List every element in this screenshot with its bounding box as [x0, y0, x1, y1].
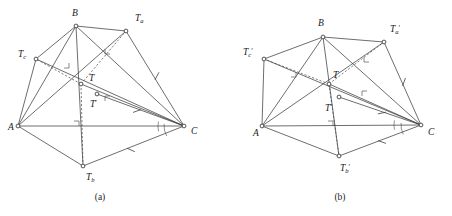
tick-mark-1 [403, 78, 406, 86]
edge-B-Ta [76, 26, 126, 31]
edge-A-Ta [18, 31, 126, 126]
vertex-T [79, 82, 83, 86]
geometry-figure: ABCTaTbTcTT′ABCTa′Tb′Tc′TT′(a)(b) [0, 0, 452, 216]
vertex-T [327, 82, 331, 86]
label-A: A [7, 122, 14, 132]
vertex-B [74, 24, 78, 28]
vertex-A [260, 124, 264, 128]
panel-a: ABCTaTbTcTT′ [7, 8, 198, 183]
label-Tp: T′ [90, 99, 97, 109]
label-Ta: Ta [135, 13, 144, 24]
edge-Ta-C [384, 42, 421, 125]
edge-A-Tb [262, 126, 339, 156]
tick-mark-1 [155, 72, 159, 79]
edge-Tb-C [339, 125, 421, 156]
edge-A-Tc [18, 59, 36, 126]
edge-A-C [262, 125, 421, 126]
vertex-C [419, 123, 423, 127]
vertex-B [321, 35, 325, 39]
edge-B-Tc [36, 26, 76, 59]
label-Ta: Ta′ [390, 24, 401, 35]
panel-b: ABCTa′Tb′Tc′TT′ [243, 18, 435, 174]
label-C: C [191, 126, 198, 136]
edge-A-Tb [18, 126, 83, 166]
label-Tc: Tc [18, 49, 26, 60]
edge-Tb-C [83, 126, 184, 166]
edge-T-C [329, 84, 421, 125]
edge-A-B [18, 26, 76, 126]
tick-mark-2 [127, 148, 135, 151]
right-angle-mark-1 [74, 121, 79, 126]
edge-A-B [262, 37, 323, 126]
label-B: B [318, 18, 324, 28]
vertex-Tb [337, 154, 341, 158]
tick-mark-2 [378, 141, 386, 144]
right-angle-mark-2 [64, 63, 69, 68]
vertex-Ta [124, 29, 128, 33]
label-C: C [428, 127, 435, 137]
vertex-Tc [262, 57, 266, 61]
edge-B-Ta [323, 37, 384, 42]
right-angle-mark-4 [362, 91, 367, 96]
edge-Tc-C [36, 59, 184, 126]
label-Tp: T′ [325, 103, 332, 113]
vertex-Ta [382, 40, 386, 44]
dashed-edge-T-Ta [81, 31, 126, 84]
edge-B-Tc [264, 37, 323, 59]
angle-arc-2 [158, 121, 159, 131]
edge-A-Tc [262, 59, 264, 126]
edge-Tp-C [339, 97, 421, 125]
caption-a: (a) [95, 192, 106, 203]
caption-b: (b) [334, 192, 345, 203]
vertex-Tb [81, 164, 85, 168]
vertex-C [182, 124, 186, 128]
vertex-Tp [337, 95, 341, 99]
label-Tb: Tb [86, 172, 95, 183]
edge-B-Tb [76, 26, 83, 166]
label-A: A [252, 128, 259, 138]
tick-mark-3 [133, 110, 141, 113]
label-Tb: Tb′ [340, 163, 351, 174]
label-Tc: Tc′ [243, 47, 253, 58]
right-angle-mark-3 [364, 57, 369, 62]
edge-Tc-C [264, 59, 421, 125]
vertex-Tc [34, 57, 38, 61]
vertex-A [16, 124, 20, 128]
vertex-Tp [95, 92, 99, 96]
label-B: B [72, 8, 78, 18]
dashed-edge-T-Tc [36, 59, 81, 84]
right-angle-mark-2 [291, 72, 296, 77]
label-T: T [89, 73, 95, 83]
label-T: T [333, 70, 339, 80]
